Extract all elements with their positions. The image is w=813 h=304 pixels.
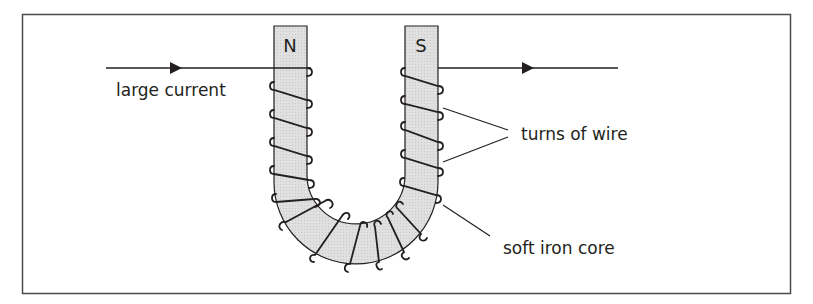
north-pole-label: N	[283, 35, 296, 56]
outgoing-wire	[438, 62, 618, 74]
turns-pointer-lines	[443, 108, 508, 162]
current-label: large current	[116, 80, 226, 100]
arrow-right-icon	[170, 62, 182, 74]
core-pointer-line	[443, 205, 490, 236]
core-label: soft iron core	[503, 238, 615, 258]
south-pole-label: S	[415, 35, 426, 56]
electromagnet-diagram: N S large current	[0, 0, 813, 304]
soft-iron-core	[274, 26, 438, 264]
turns-label: turns of wire	[521, 124, 628, 144]
arrow-right-icon	[522, 62, 534, 74]
